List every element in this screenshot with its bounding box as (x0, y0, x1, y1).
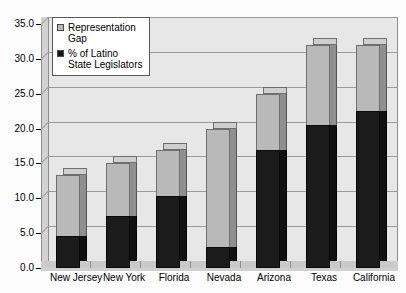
y-axis-tick-label: 30.0 (4, 54, 34, 64)
bar-segment-latino-legislators (56, 236, 80, 268)
bar-top-face (313, 38, 337, 45)
bar (56, 175, 80, 268)
black-swatch-icon (57, 50, 64, 57)
bar-top-face (163, 143, 187, 150)
y-axis-tick (36, 129, 41, 130)
bar-segment-latino-legislators (106, 216, 130, 268)
y-axis-tick-label: 35.0 (4, 19, 34, 29)
bar-side-base (280, 150, 287, 262)
y-axis-tick (36, 24, 41, 25)
stacked-bar-chart: 0.05.010.015.020.025.030.035.0 New Jerse… (0, 0, 406, 293)
bar-side-gap (330, 45, 337, 125)
y-axis-tick (36, 198, 41, 199)
y-axis-tick-label: 5.0 (4, 228, 34, 238)
bar-top-face (113, 156, 137, 163)
category-separator (90, 261, 91, 268)
bar-segment-representation-gap (156, 150, 180, 197)
bar-segment-representation-gap (106, 163, 130, 215)
bar (106, 163, 130, 268)
bar-segment-latino-legislators (306, 125, 330, 268)
y-axis-tick (36, 163, 41, 164)
bar (256, 94, 280, 268)
bar (156, 150, 180, 269)
bar-top-face (363, 38, 387, 45)
category-separator (290, 261, 291, 268)
y-axis-tick-label: 15.0 (4, 158, 34, 168)
y-axis-tick-label: 10.0 (4, 193, 34, 203)
gray-swatch-icon (57, 24, 64, 31)
x-axis-category-label: California (350, 272, 398, 284)
legend-label: Representation Gap (68, 22, 136, 44)
y-axis-tick (36, 233, 41, 234)
y-axis-tick-label: 20.0 (4, 124, 34, 134)
bar-side-base (180, 196, 187, 261)
bar-side-base (380, 111, 387, 261)
x-axis-category-label: Arizona (250, 272, 298, 284)
bar-side-gap (380, 45, 387, 111)
y-axis-tick (36, 59, 41, 60)
bar (206, 129, 230, 268)
bar-segment-latino-legislators (206, 247, 230, 268)
legend-item-latino-legislators: % of Latino State Legislators (57, 48, 143, 70)
y-axis-tick (36, 268, 41, 269)
x-axis-category-label: Nevada (200, 272, 248, 284)
bar-segment-latino-legislators (256, 150, 280, 269)
bar-top-face (63, 168, 87, 175)
bar-segment-latino-legislators (156, 196, 180, 268)
y-axis-tick (36, 94, 41, 95)
y-axis-tick-label: 0.0 (4, 263, 34, 273)
legend-item-representation-gap: Representation Gap (57, 22, 143, 44)
x-axis-category-label: Texas (300, 272, 348, 284)
bar-side-gap (80, 175, 87, 236)
bar-segment-representation-gap (256, 94, 280, 150)
bar-side-gap (130, 163, 137, 215)
bar-side-base (330, 125, 337, 261)
bar-top-face (213, 122, 237, 129)
bar-segment-representation-gap (306, 45, 330, 125)
category-separator (340, 261, 341, 268)
y-axis-tick-label: 25.0 (4, 89, 34, 99)
bar (306, 45, 330, 268)
bar-segment-latino-legislators (356, 111, 380, 268)
category-separator (140, 261, 141, 268)
x-axis-category-label: Florida (150, 272, 198, 284)
gridline (48, 87, 398, 88)
category-separator (240, 261, 241, 268)
legend-label: % of Latino State Legislators (68, 48, 143, 70)
category-separator (190, 261, 191, 268)
chart-legend: Representation Gap % of Latino State Leg… (52, 17, 150, 76)
bar-segment-representation-gap (356, 45, 380, 111)
bar-side-gap (280, 94, 287, 150)
x-axis-category-label: New York (100, 272, 148, 284)
bar-top-face (263, 87, 287, 94)
x-axis-labels: New JerseyNew YorkFloridaNevadaArizonaTe… (41, 272, 406, 292)
bar-side-base (80, 236, 87, 261)
bar (356, 45, 380, 268)
bar-segment-representation-gap (56, 175, 80, 236)
bar-side-gap (230, 129, 237, 248)
bar-side-base (230, 247, 237, 261)
bar-side-base (130, 216, 137, 261)
y-axis-labels: 0.05.010.015.020.025.030.035.0 (0, 0, 34, 293)
bar-side-gap (180, 150, 187, 197)
bar-segment-representation-gap (206, 129, 230, 248)
x-axis-category-label: New Jersey (50, 272, 98, 284)
